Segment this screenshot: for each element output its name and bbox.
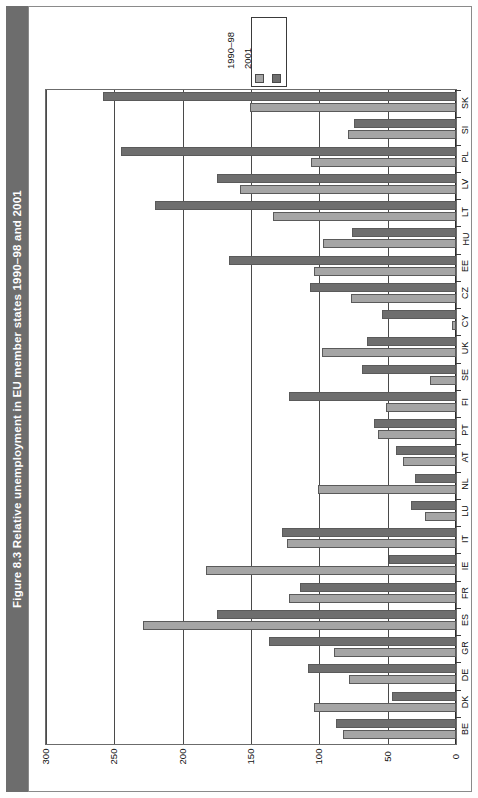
chart-category-band: LU: [46, 499, 456, 526]
category-tick: [456, 526, 461, 527]
bar-1990-98[interactable]: [378, 430, 456, 439]
bar-1990-98[interactable]: [386, 403, 456, 412]
bar-2001[interactable]: [392, 692, 456, 701]
category-label-text: FI: [460, 398, 470, 406]
category-tick: [456, 717, 461, 718]
bar-2001[interactable]: [217, 174, 456, 183]
category-label-gr: GR: [452, 643, 478, 653]
value-axis: 300250200150100500: [45, 745, 457, 793]
bar-1990-98[interactable]: [287, 539, 456, 548]
bar-2001[interactable]: [217, 610, 456, 619]
bar-1990-98[interactable]: [323, 239, 456, 248]
bar-2001[interactable]: [282, 528, 456, 537]
category-label-text: CZ: [460, 287, 470, 299]
bar-1990-98[interactable]: [250, 103, 456, 112]
bar-2001[interactable]: [336, 719, 456, 728]
category-tick: [456, 90, 461, 91]
category-label-lt: LT: [452, 207, 478, 217]
category-label-text: EE: [460, 260, 470, 272]
bar-2001[interactable]: [411, 501, 456, 510]
figure-page: Figure 8.3 Relative unemployment in EU m…: [0, 0, 478, 798]
bar-2001[interactable]: [374, 419, 456, 428]
bar-1990-98[interactable]: [289, 594, 456, 603]
value-tick-label: 250: [99, 751, 129, 762]
bar-1990-98[interactable]: [314, 267, 456, 276]
bar-1990-98[interactable]: [318, 485, 456, 494]
bar-2001[interactable]: [121, 147, 456, 156]
category-label-nl: NL: [452, 479, 478, 489]
bar-2001[interactable]: [396, 446, 456, 455]
bar-2001[interactable]: [269, 637, 456, 646]
bar-1990-98[interactable]: [311, 158, 456, 167]
bar-2001[interactable]: [367, 337, 456, 346]
bar-2001[interactable]: [289, 392, 456, 401]
category-label-text: PT: [460, 424, 470, 436]
bar-1990-98[interactable]: [240, 185, 456, 194]
chart-category-band: IT: [46, 526, 456, 553]
bar-2001[interactable]: [382, 310, 456, 319]
bar-2001[interactable]: [354, 119, 457, 128]
category-label-it: IT: [452, 534, 478, 544]
bar-2001[interactable]: [352, 228, 456, 237]
value-tick-label: 50: [373, 751, 403, 762]
bar-2001[interactable]: [362, 365, 456, 374]
bar-2001[interactable]: [300, 583, 456, 592]
category-label-text: CY: [460, 314, 470, 327]
legend-item-label: 1990–98: [225, 24, 237, 70]
bar-1990-98[interactable]: [143, 621, 456, 630]
bar-2001[interactable]: [389, 555, 456, 564]
bar-1990-98[interactable]: [349, 675, 456, 684]
category-label-pt: PT: [452, 425, 478, 435]
category-tick: [456, 635, 461, 636]
bar-2001[interactable]: [308, 664, 456, 673]
bar-1990-98[interactable]: [351, 294, 456, 303]
bar-2001[interactable]: [310, 283, 456, 292]
bar-2001[interactable]: [229, 256, 456, 265]
bar-1990-98[interactable]: [334, 648, 456, 657]
category-tick: [456, 145, 461, 146]
bar-2001[interactable]: [155, 201, 456, 210]
category-label-text: ES: [460, 614, 470, 626]
category-label-text: IE: [460, 562, 470, 571]
category-label-cz: CZ: [452, 288, 478, 298]
category-label-be: BE: [452, 724, 478, 734]
value-tick-label: 300: [31, 751, 61, 762]
chart-category-band: FR: [46, 581, 456, 608]
bar-1990-98[interactable]: [314, 703, 456, 712]
bar-1990-98[interactable]: [343, 730, 456, 739]
bar-1990-98[interactable]: [322, 348, 456, 357]
chart-legend: 1990–98 2001: [251, 17, 287, 87]
chart-category-band: PL: [46, 145, 456, 172]
category-label-text: SK: [460, 97, 470, 109]
category-tick: [456, 608, 461, 609]
legend-swatch-icon: [255, 74, 264, 83]
chart-category-band: BE: [46, 717, 456, 744]
category-label-dk: DK: [452, 697, 478, 707]
bar-1990-98[interactable]: [206, 566, 456, 575]
category-tick: [456, 172, 461, 173]
bar-1990-98[interactable]: [273, 212, 456, 221]
legend-item-1990-98[interactable]: 1990–98: [253, 19, 269, 83]
category-tick: [456, 335, 461, 336]
bar-1990-98[interactable]: [403, 457, 456, 466]
legend-item-2001[interactable]: 2001: [270, 19, 286, 83]
chart-category-band: GR: [46, 635, 456, 662]
chart-category-band: EE: [46, 254, 456, 281]
chart-category-band: IE: [46, 553, 456, 580]
bar-2001[interactable]: [415, 474, 456, 483]
chart-category-band: CZ: [46, 281, 456, 308]
category-label-text: GR: [460, 641, 470, 655]
category-label-hu: HU: [452, 234, 478, 244]
category-tick: [456, 417, 461, 418]
chart-category-band: FI: [46, 390, 456, 417]
value-tick-label: 100: [304, 751, 334, 762]
legend-item-label: 2001: [242, 24, 254, 70]
category-label-text: AT: [460, 451, 470, 462]
bar-2001[interactable]: [103, 92, 456, 101]
category-tick: [456, 254, 461, 255]
chart-category-band: PT: [46, 417, 456, 444]
category-tick: [456, 363, 461, 364]
category-label-text: NL: [460, 478, 470, 490]
value-tick-label: 150: [236, 751, 266, 762]
bar-1990-98[interactable]: [348, 130, 456, 139]
